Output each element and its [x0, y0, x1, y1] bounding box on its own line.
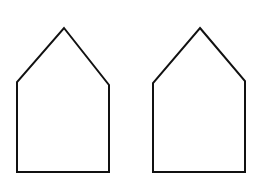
diagram-canvas [0, 0, 264, 182]
background [0, 0, 264, 182]
